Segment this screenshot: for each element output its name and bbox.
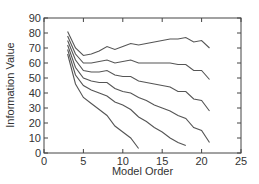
series-line-curve-5 bbox=[68, 50, 186, 146]
data-lines bbox=[68, 32, 210, 149]
y-tick-label: 60 bbox=[29, 57, 41, 69]
y-tick-label: 10 bbox=[29, 132, 41, 144]
series-line-curve-6 bbox=[68, 54, 139, 149]
y-tick-label: 20 bbox=[29, 117, 41, 129]
line-chart: 05101520250102030405060708090 Model Orde… bbox=[0, 0, 259, 184]
y-tick-label: 0 bbox=[35, 147, 41, 159]
y-tick-label: 80 bbox=[29, 27, 41, 39]
x-tick-label: 5 bbox=[80, 155, 86, 167]
x-tick-label: 20 bbox=[195, 155, 207, 167]
y-axis-label: Information Value bbox=[4, 42, 16, 127]
series-line-curve-1 bbox=[68, 32, 210, 56]
y-tick-label: 90 bbox=[29, 12, 41, 24]
series-line-curve-2 bbox=[68, 36, 210, 80]
tick-labels: 05101520250102030405060708090 bbox=[29, 12, 247, 167]
y-tick-label: 30 bbox=[29, 102, 41, 114]
y-tick-label: 40 bbox=[29, 87, 41, 99]
axis-ticks bbox=[44, 18, 241, 153]
plot-frame bbox=[44, 18, 241, 153]
x-tick-label: 25 bbox=[235, 155, 247, 167]
x-axis-label: Model Order bbox=[112, 165, 173, 177]
y-tick-label: 50 bbox=[29, 72, 41, 84]
series-line-curve-3 bbox=[68, 41, 210, 112]
x-tick-label: 0 bbox=[41, 155, 47, 167]
y-tick-label: 70 bbox=[29, 42, 41, 54]
